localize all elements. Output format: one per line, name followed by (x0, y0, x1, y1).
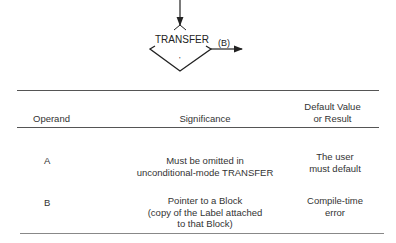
row-a-operand: A (44, 155, 50, 167)
row-b-default: Compile-time error (290, 195, 380, 218)
transfer-block-diagram: TRANSFER (B) ' (0, 0, 396, 85)
operand-b-label: (B) (218, 38, 230, 48)
table-bottom-rule (20, 233, 384, 234)
block-name-label: TRANSFER (155, 35, 209, 45)
header-significance: Significance (140, 113, 270, 125)
row-b-operand: B (44, 197, 50, 209)
row-a-default: The user must default (290, 151, 380, 174)
center-mark: ' (179, 55, 181, 65)
row-b-significance: Pointer to a Block (copy of the Label at… (110, 195, 300, 230)
header-operand: Operand (33, 113, 70, 125)
header-default: Default Value or Result (285, 101, 380, 124)
header-rule (17, 127, 379, 128)
table-top-rule (17, 90, 379, 91)
row-a-significance: Must be omitted in unconditional-mode TR… (110, 155, 300, 178)
